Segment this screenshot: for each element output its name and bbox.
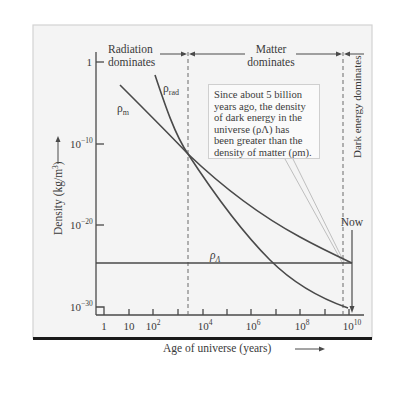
callout-line-3: of dark energy in the [214,112,314,124]
region-dark-energy-label: Dark energy dominates [351,56,363,158]
callout-line-5: been greater than the [214,135,314,147]
now-label: Now [341,216,364,228]
y-tick-1: 1 [87,56,93,68]
region-radiation-label-1: Radiation [108,43,153,55]
x-axis-arrow-icon [295,347,325,352]
region-radiation-label-2: dominates [108,56,156,68]
callout-line-4: universe (ρΛ) has [214,124,314,136]
region-matter-label-2: dominates [247,56,295,68]
figure-panel [33,25,372,338]
x-axis-label: Age of universe (years) [163,342,271,355]
region-matter-label-1: Matter [256,43,287,55]
callout-line-2: years ago, the density [214,101,314,113]
callout-line-6: density of matter (ρm). [214,147,314,159]
density-vs-age-figure: 1 10−10 10−20 10−30 1 10 102 104 106 108… [0,0,410,397]
y-axis-label: Density (kg/m3) [51,161,65,235]
callout-line-1: Since about 5 billion [214,89,314,101]
bottom-rule [33,337,372,340]
x-tick-10: 10 [124,320,136,332]
x-tick-1: 1 [101,320,107,332]
annotation-callout: Since about 5 billion years ago, the den… [208,84,320,159]
